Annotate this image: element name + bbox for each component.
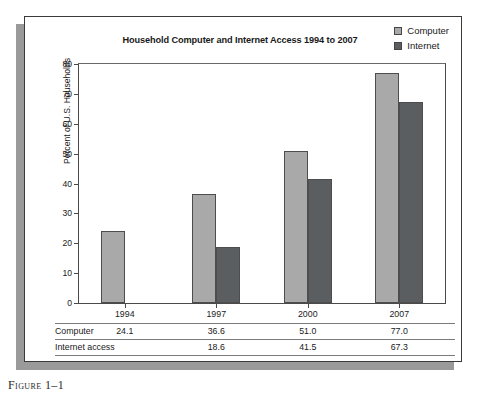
table-row: Computer 24.136.651.077.0 <box>55 324 455 339</box>
table-cell: 41.5 <box>273 342 343 352</box>
row-label-internet: Internet access <box>55 342 115 352</box>
x-axis-tick-mark <box>125 303 126 308</box>
table-cell: 18.6 <box>181 342 251 352</box>
bar-internet-1997 <box>216 247 240 303</box>
legend-item-computer: Computer <box>394 26 449 35</box>
y-axis-tick-label: 60 <box>48 120 72 128</box>
bar-group <box>375 73 423 303</box>
x-axis-label: 1997 <box>181 309 251 319</box>
data-table: Computer 24.136.651.077.0 Internet acces… <box>55 323 455 356</box>
y-axis-tick-label: 40 <box>48 180 72 188</box>
plot-area: Percent of U.S. Households 0102030405060… <box>78 63 446 304</box>
table-cell: 36.6 <box>181 326 251 336</box>
table-row: Internet access 18.641.567.3 <box>55 340 455 355</box>
row-label-computer: Computer <box>55 326 94 336</box>
table-cell: 77.0 <box>364 326 434 336</box>
y-axis-tick-label: 20 <box>48 239 72 247</box>
table-rule-bottom <box>55 355 455 356</box>
table-cell: 67.3 <box>364 342 434 352</box>
bar-computer-1997 <box>192 194 216 303</box>
legend-label-internet: Internet <box>407 41 439 50</box>
bar-internet-2007 <box>399 102 423 303</box>
figure-panel: Household Computer and Internet Access 1… <box>24 16 462 362</box>
table-cell: 51.0 <box>273 326 343 336</box>
y-axis-tick-label: 50 <box>48 150 72 158</box>
y-axis-tick-label: 70 <box>48 90 72 98</box>
y-axis-tick-label: 80 <box>48 60 72 68</box>
legend-item-internet: Internet <box>394 41 449 50</box>
table-cell: 24.1 <box>90 326 160 336</box>
bar-computer-1994 <box>101 231 125 303</box>
bars-layer <box>79 64 445 303</box>
bar-group <box>101 231 149 303</box>
bar-computer-2007 <box>375 73 399 303</box>
legend-label-computer: Computer <box>407 26 449 35</box>
x-axis-label: 2007 <box>364 309 434 319</box>
y-axis-tick-label: 0 <box>48 299 72 307</box>
figure-caption: Figure 1–1 <box>8 378 64 393</box>
chart-title: Household Computer and Internet Access 1… <box>75 35 405 45</box>
bar-group <box>192 194 240 303</box>
y-axis-tick-mark <box>74 303 79 304</box>
x-axis-label: 2000 <box>273 309 343 319</box>
bar-internet-2000 <box>308 179 332 303</box>
x-axis-label: 1994 <box>90 309 160 319</box>
legend-swatch-icon <box>394 42 402 50</box>
y-axis-tick-label: 30 <box>48 209 72 217</box>
x-axis-tick-mark <box>216 303 217 308</box>
x-axis-tick-mark <box>308 303 309 308</box>
chart-legend: Computer Internet <box>394 26 449 50</box>
y-axis-tick-label: 10 <box>48 269 72 277</box>
legend-swatch-icon <box>394 27 402 35</box>
x-axis-tick-mark <box>399 303 400 308</box>
bar-computer-2000 <box>284 151 308 303</box>
bar-group <box>284 151 332 303</box>
